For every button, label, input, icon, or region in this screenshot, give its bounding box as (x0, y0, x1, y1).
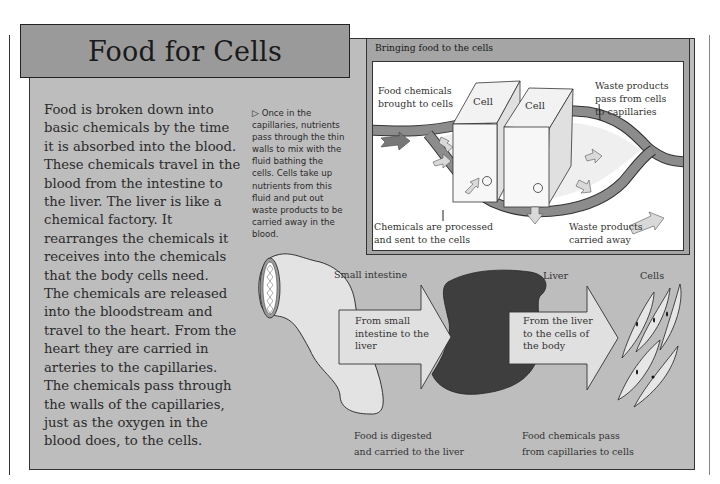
arrow-label-intestine-to-liver: From small intestine to the liver (355, 315, 429, 353)
arrow-label-liver-to-cells: From the liver to the cells of the body (523, 315, 593, 353)
caption-chemicals-pass: Food chemicals pass from capillaries to … (522, 428, 634, 460)
label-liver: Liver (543, 270, 568, 283)
label-cells: Cells (640, 270, 664, 283)
digestion-pathway-illustration (0, 0, 720, 484)
label-small-intestine: Small intestine (334, 269, 407, 282)
caption-digested: Food is digested and carried to the live… (354, 428, 464, 460)
